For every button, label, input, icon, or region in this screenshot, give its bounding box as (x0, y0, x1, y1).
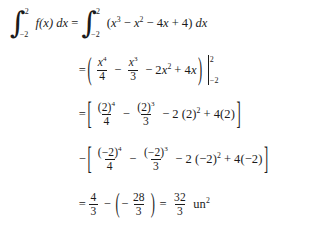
evaluation-rule (208, 55, 209, 85)
line-2-lead-operator: = (70, 63, 86, 78)
fraction-denominator: 3 (89, 204, 99, 217)
fraction-denominator: 4 (102, 114, 112, 127)
integral-glyph-icon: ∫ (81, 13, 97, 32)
fraction-denominator: 3 (141, 114, 151, 127)
fraction-denominator: 3 (151, 159, 161, 172)
term-2x-squared: 2x2 (155, 63, 171, 78)
result-units: un2 (193, 197, 210, 212)
evaluation-lower-limit: −2 (210, 76, 219, 85)
term-2-times-2-squared: 2(2)2 (172, 107, 200, 122)
minus-operator: − (175, 152, 182, 167)
fraction-2pow3-over-3: (2)3 3 (135, 102, 156, 127)
fraction-neg2pow4-over-4: (−2)4 4 (96, 147, 124, 172)
units-exponent: 2 (206, 196, 210, 205)
fraction-numerator: (−2)3 (142, 147, 170, 159)
line-1-body: ∫ 2 −2 f(x) dx = ∫ 2 −2 (x3−x2−4x+4) (10, 8, 207, 38)
right-bracket-line-3: ] (236, 95, 240, 134)
fraction-denominator: 3 (128, 70, 138, 83)
plus-operator: + (174, 63, 181, 78)
fraction-x3-over-3: x3 3 (127, 57, 140, 82)
integral-upper-limit: 2 (25, 7, 34, 16)
fraction-2pow4-over-4: (2)4 4 (96, 102, 117, 127)
integral-symbol-lhs: ∫ 2 −2 (10, 8, 31, 38)
left-bracket-line-4: [ (88, 140, 92, 179)
left-paren-line-5: ( (116, 188, 120, 221)
right-paren-line-2: ) (198, 52, 202, 89)
integral-upper-limit: 2 (96, 7, 105, 16)
line-4-lead-operator: − (70, 152, 86, 167)
minus-operator: − (104, 197, 111, 212)
integral-symbol-rhs: ∫ 2 −2 (81, 8, 102, 38)
minus-operator: − (114, 63, 121, 78)
differential-lhs: dx (56, 16, 68, 31)
fraction-numerator: (2)3 (135, 102, 156, 114)
equation-line-2: = ( x4 4 − x3 3 − 2x2 + 4x ) 2 −2 (70, 55, 219, 85)
left-paren-line-2: ( (88, 52, 92, 89)
fraction-numerator: 4 (89, 192, 99, 204)
minus-operator: − (162, 107, 169, 122)
line-5-lead-operator: = (70, 197, 86, 212)
fraction-denominator: 3 (134, 204, 144, 217)
integrand-polynomial-rhs: (x3−x2−4x+4) (107, 16, 193, 31)
equation-line-1: ∫ 2 −2 f(x) dx = ∫ 2 −2 (x3−x2−4x+4) (10, 8, 207, 38)
line-3-body: [ (2)4 4 − (2)3 3 − 2(2)2 + 4(2) ] (86, 102, 242, 127)
fraction-denominator: 4 (105, 159, 115, 172)
fraction-numerator: (2)4 (96, 102, 117, 114)
evaluation-bar: 2 −2 (208, 55, 219, 85)
line-5-body: 4 3 − ( − 28 3 ) = 32 3 un2 (86, 192, 210, 217)
line-3-lead-operator: = (70, 107, 86, 122)
integral-lower-limit: −2 (91, 30, 100, 39)
fraction-numerator: 32 (172, 192, 188, 204)
term-4-times-2: 4(2) (214, 107, 235, 122)
line-4-body: [ (−2)4 4 − (−2)3 3 − 2(−2)2 + 4(−2) ] (86, 147, 270, 172)
minus-operator: − (129, 152, 136, 167)
fraction-result-32-over-3: 32 3 (172, 192, 188, 217)
right-paren-line-5: ) (151, 188, 155, 221)
right-bracket-line-4: ] (264, 140, 268, 179)
equals-sign-line-5: = (159, 197, 166, 212)
left-bracket-line-3: [ (88, 95, 92, 134)
fraction-4-over-3: 4 3 (89, 192, 99, 217)
fraction-x4-over-4: x4 4 (96, 57, 109, 82)
evaluation-limits: 2 −2 (210, 55, 219, 85)
term-2-times-neg2-squared: 2(−2)2 (186, 152, 221, 167)
plus-operator: + (224, 152, 231, 167)
fraction-numerator: x3 (127, 57, 140, 69)
units-label: un (193, 197, 206, 211)
term-4-times-neg2: 4(−2) (234, 152, 262, 167)
negative-sign-second-fraction: − (121, 197, 128, 212)
fraction-neg2pow3-over-3: (−2)3 3 (142, 147, 170, 172)
plus-operator: + (204, 107, 211, 122)
line-2-body: ( x4 4 − x3 3 − 2x2 + 4x ) 2 −2 (86, 55, 219, 85)
equation-line-5: = 4 3 − ( − 28 3 ) = 32 3 un2 (70, 192, 210, 217)
equation-line-3: = [ (2)4 4 − (2)3 3 − 2(2)2 + 4(2) ] (70, 102, 242, 127)
fraction-numerator: (−2)4 (96, 147, 124, 159)
fraction-numerator: 28 (131, 192, 147, 204)
integrand-function-lhs: f(x) (35, 16, 53, 31)
fraction-denominator: 4 (97, 70, 107, 83)
fraction-28-over-3: 28 3 (131, 192, 147, 217)
integral-glyph-icon: ∫ (10, 13, 26, 32)
evaluation-upper-limit: 2 (210, 55, 219, 64)
math-worksheet: ∫ 2 −2 f(x) dx = ∫ 2 −2 (x3−x2−4x+4) (0, 0, 313, 235)
differential-rhs: dx (195, 16, 207, 31)
equation-line-4: − [ (−2)4 4 − (−2)3 3 − 2(−2)2 + 4(−2) ] (70, 147, 270, 172)
integral-lower-limit: −2 (20, 30, 29, 39)
fraction-numerator: x4 (96, 57, 109, 69)
equals-sign-line-1: = (71, 16, 78, 31)
minus-operator: − (145, 63, 152, 78)
fraction-denominator: 3 (175, 204, 185, 217)
minus-operator: − (123, 107, 130, 122)
term-4x: 4x (185, 63, 197, 78)
